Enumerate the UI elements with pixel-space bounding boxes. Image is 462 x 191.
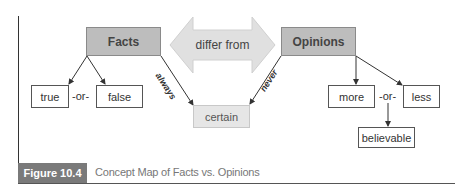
node-true: true: [31, 85, 69, 108]
node-certain: certain: [193, 105, 250, 128]
node-differ-from: differ from: [190, 38, 255, 52]
node-less: less: [403, 85, 440, 108]
node-believable: believable: [358, 127, 415, 148]
or-connector-right: -or-: [379, 90, 396, 102]
node-more: more: [328, 85, 375, 108]
node-facts: Facts: [86, 27, 161, 56]
node-opinions: Opinions: [281, 27, 356, 56]
figure-label: Figure 10.4: [18, 163, 87, 183]
figure-title: Concept Map of Facts vs. Opinions: [95, 166, 260, 178]
node-false: false: [96, 85, 143, 108]
or-connector-left: -or-: [72, 90, 89, 102]
